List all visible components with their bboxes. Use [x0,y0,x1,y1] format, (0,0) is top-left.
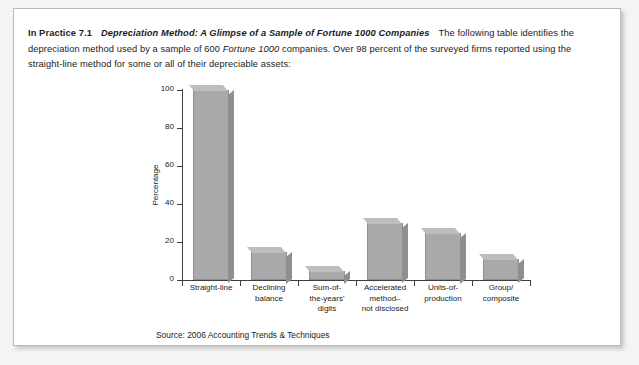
y-axis-tick-label: 80 [165,122,174,131]
bar [483,259,519,280]
bar-top-face [305,266,344,272]
x-axis-category-label: Accelerated method– not disclosed [356,283,414,315]
bar-top-face [247,247,286,253]
y-axis-line [182,89,183,281]
bar [193,90,229,280]
y-axis-tick-label: 100 [161,84,174,93]
bar-top-face [421,228,460,234]
y-axis-tick-label: 20 [165,236,174,245]
x-axis-category-label: Sum-of- the-years' digits [298,283,356,315]
y-axis-tick [177,204,183,205]
bar [425,233,461,281]
y-axis-tick [177,90,183,91]
page-background: In Practice 7.1Depreciation Method: A Gl… [0,0,639,365]
y-axis-tick-label: 40 [165,198,174,207]
plot-area: 020406080100 [182,89,530,281]
y-axis-tick [177,128,183,129]
y-axis-tick-label: 0 [170,274,174,283]
panel-body-italic: Fortune 1000 [223,44,279,54]
bar-side-face [228,90,234,283]
panel-intro-paragraph: In Practice 7.1Depreciation Method: A Gl… [28,26,608,72]
bar [309,271,345,281]
bar-top-face [363,218,402,224]
panel-label: In Practice 7.1 [28,28,92,38]
depreciation-method-bar-chart: Percentage 020406080100 Straight-lineDec… [154,87,534,292]
bar-side-face [402,223,408,283]
bar-top-face [189,85,228,91]
x-axis-category-label: Units-of- production [414,283,472,304]
bar-side-face [460,232,466,283]
y-axis-tick [177,242,183,243]
bar [367,223,403,280]
bar-side-face [344,270,350,283]
bar-top-face [479,254,518,260]
in-practice-panel: In Practice 7.1Depreciation Method: A Gl… [13,8,621,346]
chart-source-note: Source: 2006 Accounting Trends & Techniq… [156,330,330,340]
y-axis-tick [177,166,183,167]
panel-title: Depreciation Method: A Glimpse of a Samp… [101,28,430,38]
x-axis-tick [530,280,531,286]
bar [251,252,287,281]
y-axis-tick-label: 60 [165,160,174,169]
x-axis-category-label: Straight-line [182,283,240,294]
x-axis-category-label: Group/ composite [472,283,530,304]
bar-side-face [286,251,292,283]
x-axis-category-label: Declining balance [240,283,298,304]
y-axis-label: Percentage [151,145,160,225]
